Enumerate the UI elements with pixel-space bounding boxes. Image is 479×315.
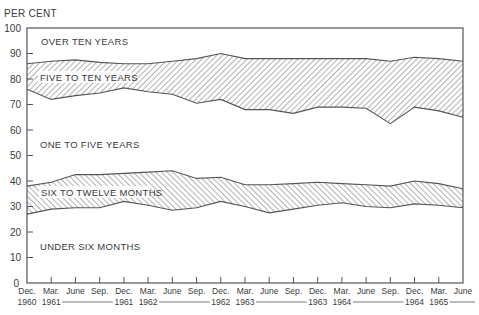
x-year-label: 1964 [332,297,351,307]
x-tick-label: Sep. [91,286,109,296]
x-year-label: 1962 [211,297,230,307]
y-tick-label: 30 [10,201,22,212]
y-tick-label: 60 [10,125,22,136]
x-year-label: 1961 [42,297,61,307]
x-year-label: 1963 [236,297,255,307]
y-tick-label: 50 [10,150,22,161]
x-year-label: 1964 [405,297,424,307]
y-tick-label: 10 [10,252,22,263]
x-tick-label: Dec. [406,286,423,296]
x-tick-label: June [66,286,85,296]
x-year-label: 1961 [114,297,133,307]
chart-canvas: PER CENT 0102030405060708090100 Dec.Mar.… [0,0,479,315]
x-tick-label: June [357,286,376,296]
y-axis: 0102030405060708090100 [4,23,33,289]
x-tick-label: Sep. [285,286,303,296]
x-tick-label: June [260,286,279,296]
label-one-to-five-years: ONE TO FIVE YEARS [40,139,140,150]
label-under-six-months: UNDER SIX MONTHS [40,241,140,252]
x-tick-label: Mar. [43,286,60,296]
x-tick-label: Mar. [140,286,157,296]
y-tick-label: 80 [10,74,22,85]
x-tick-label: Mar. [334,286,351,296]
label-over-ten-years: OVER TEN YEARS [41,36,128,47]
x-year-label: 1960 [18,297,37,307]
y-tick-label: 70 [10,99,22,110]
label-six-to-twelve-months: SIX TO TWELVE MONTHS [41,187,162,198]
x-axis: Dec.Mar.JuneSep.Dec.Mar.JuneSep.Dec.Mar.… [18,277,475,307]
x-tick-label: June [454,286,473,296]
y-tick-label: 40 [10,176,22,187]
y-tick-label: 100 [4,23,21,34]
x-tick-label: Sep. [382,286,400,296]
y-tick-label: 20 [10,227,22,238]
x-tick-label: Dec. [212,286,229,296]
x-tick-label: Dec. [18,286,35,296]
x-tick-label: Mar. [237,286,254,296]
stacked-area-chart: PER CENT 0102030405060708090100 Dec.Mar.… [0,0,479,315]
x-tick-label: Dec. [309,286,326,296]
x-tick-label: Dec. [115,286,132,296]
x-year-label: 1963 [308,297,327,307]
x-tick-label: Mar. [431,286,448,296]
x-tick-label: June [163,286,182,296]
y-tick-label: 90 [10,48,22,59]
y-axis-unit-label: PER CENT [4,8,57,19]
x-tick-label: Sep. [188,286,206,296]
label-five-to-ten-years: FIVE TO TEN YEARS [40,72,138,83]
x-year-label: 1962 [139,297,158,307]
band-five-to-ten-years [27,54,463,124]
x-year-label: 1965 [429,297,448,307]
